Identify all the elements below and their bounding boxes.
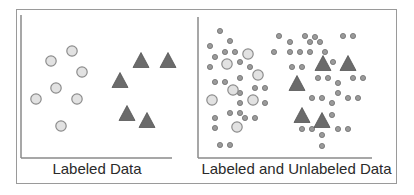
- unlabeled-dot-icon: [319, 143, 324, 148]
- unlabeled-dot-icon: [247, 64, 252, 69]
- labeled-circle-icon: [253, 70, 263, 80]
- labeled-circle-icon: [77, 67, 87, 77]
- labeled-triangle-icon: [289, 76, 305, 91]
- unlabeled-dot-icon: [335, 90, 340, 95]
- labeled-triangle-icon: [112, 73, 128, 88]
- unlabeled-dot-icon: [212, 79, 217, 84]
- unlabeled-dot-icon: [287, 49, 292, 54]
- unlabeled-dot-icon: [207, 64, 212, 69]
- labeled-triangle-icon: [294, 108, 310, 123]
- unlabeled-dot-icon: [329, 112, 334, 117]
- unlabeled-dot-icon: [289, 64, 294, 69]
- unlabeled-dot-icon: [335, 126, 340, 131]
- unlabeled-dot-icon: [325, 75, 330, 80]
- labeled-circle-icon: [222, 59, 232, 69]
- unlabeled-dot-icon: [212, 125, 217, 130]
- unlabeled-dot-icon: [299, 64, 304, 69]
- unlabeled-dot-icon: [232, 49, 237, 54]
- unlabeled-dot-icon: [207, 43, 212, 48]
- unlabeled-dot-icon: [227, 110, 232, 115]
- labeled-triangle-icon: [340, 56, 356, 71]
- unlabeled-dot-icon: [345, 126, 350, 131]
- labeled-circle-icon: [228, 85, 238, 95]
- labeled-triangle-icon: [133, 53, 149, 68]
- unlabeled-dot-icon: [242, 115, 247, 120]
- unlabeled-dot-icon: [330, 59, 335, 64]
- unlabeled-dot-icon: [312, 34, 317, 39]
- unlabeled-dot-icon: [276, 33, 281, 38]
- unlabeled-dot-icon: [319, 95, 324, 100]
- labeled-triangle-icon: [119, 106, 135, 121]
- unlabeled-dot-icon: [297, 49, 302, 54]
- unlabeled-dot-icon: [217, 142, 222, 147]
- unlabeled-dot-icon: [217, 28, 222, 33]
- labeled-circle-icon: [232, 122, 242, 132]
- labeled-circle-icon: [67, 46, 77, 56]
- labeled-circle-icon: [207, 95, 217, 105]
- labeled-circle-icon: [51, 83, 61, 93]
- labeled-circle-icon: [56, 121, 66, 131]
- unlabeled-dot-icon: [302, 33, 307, 38]
- unlabeled-dot-icon: [335, 80, 340, 85]
- unlabeled-dot-icon: [299, 126, 304, 131]
- unlabeled-dot-icon: [222, 49, 227, 54]
- unlabeled-dot-icon: [252, 85, 257, 90]
- unlabeled-dot-icon: [322, 49, 327, 54]
- semi-supervised-diagram: Labeled Data Labeled and Unlabeled Data: [0, 0, 414, 195]
- unlabeled-dot-icon: [227, 142, 232, 147]
- unlabeled-dot-icon: [227, 38, 232, 43]
- unlabeled-dot-icon: [315, 75, 320, 80]
- unlabeled-dot-icon: [307, 39, 312, 44]
- unlabeled-dot-icon: [212, 54, 217, 59]
- labeled-triangle-icon: [314, 113, 330, 128]
- labeled-triangle-icon: [139, 113, 155, 128]
- labeled-circle-icon: [243, 49, 253, 59]
- unlabeled-dot-icon: [287, 39, 292, 44]
- unlabeled-dot-icon: [237, 59, 242, 64]
- unlabeled-dot-icon: [345, 95, 350, 100]
- unlabeled-dot-icon: [350, 33, 355, 38]
- labeled-triangle-icon: [315, 56, 331, 71]
- unlabeled-dot-icon: [319, 132, 324, 137]
- unlabeled-dot-icon: [350, 75, 355, 80]
- caption-labeled-and-unlabeled-data: Labeled and Unlabeled Data: [199, 160, 394, 177]
- unlabeled-dot-icon: [237, 75, 242, 80]
- unlabeled-dot-icon: [329, 100, 334, 105]
- unlabeled-dot-icon: [360, 75, 365, 80]
- labeled-circle-icon: [46, 56, 56, 66]
- labeled-circle-icon: [31, 94, 41, 104]
- caption-labeled-data: Labeled Data: [22, 160, 172, 177]
- unlabeled-dot-icon: [271, 49, 276, 54]
- unlabeled-dot-icon: [237, 100, 242, 105]
- unlabeled-dot-icon: [212, 115, 217, 120]
- labeled-triangle-icon: [160, 53, 176, 68]
- unlabeled-dot-icon: [222, 79, 227, 84]
- unlabeled-dot-icon: [307, 49, 312, 54]
- labeled-circle-icon: [72, 94, 82, 104]
- unlabeled-dot-icon: [317, 39, 322, 44]
- unlabeled-dot-icon: [237, 110, 242, 115]
- unlabeled-dot-icon: [262, 100, 267, 105]
- unlabeled-dot-icon: [340, 33, 345, 38]
- labeled-circle-icon: [248, 95, 258, 105]
- unlabeled-dot-icon: [252, 115, 257, 120]
- unlabeled-dot-icon: [355, 95, 360, 100]
- unlabeled-dot-icon: [309, 95, 314, 100]
- unlabeled-dot-icon: [262, 85, 267, 90]
